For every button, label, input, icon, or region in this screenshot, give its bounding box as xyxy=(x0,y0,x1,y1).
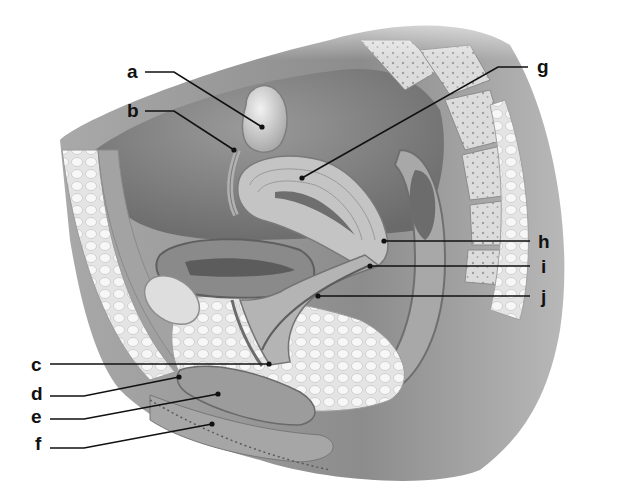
leader-dot-g xyxy=(299,175,304,180)
label-d: d xyxy=(31,384,43,403)
anatomy-diagram: a b g h i j c d e f xyxy=(0,0,622,499)
label-f: f xyxy=(35,434,41,453)
leader-dot-b xyxy=(231,147,236,152)
label-h: h xyxy=(538,232,550,251)
leader-dot-a xyxy=(259,124,264,129)
leader-dot-i xyxy=(367,263,372,268)
leader-dot-j xyxy=(315,293,320,298)
label-b: b xyxy=(127,101,139,120)
label-g: g xyxy=(537,57,549,76)
leader-dot-f xyxy=(209,421,214,426)
label-e: e xyxy=(31,407,42,426)
label-c: c xyxy=(31,355,42,374)
label-a: a xyxy=(127,62,138,81)
leader-dot-d xyxy=(176,374,181,379)
label-i: i xyxy=(541,257,546,276)
leader-dot-e xyxy=(215,391,220,396)
leader-dot-c xyxy=(266,361,271,366)
label-j: j xyxy=(541,287,546,306)
pelvis-illustration xyxy=(0,0,622,499)
leader-dot-h xyxy=(381,238,386,243)
